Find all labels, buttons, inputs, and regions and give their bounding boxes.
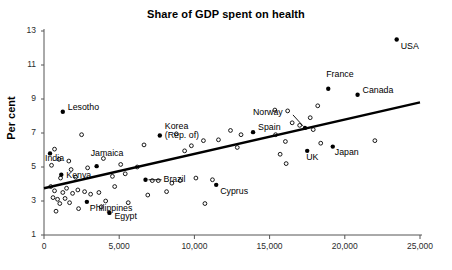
y-tick-label: 3 (14, 195, 36, 205)
point-label: Japan (335, 148, 359, 158)
point-label: Brazil (164, 175, 186, 185)
point-label: Cyprus (220, 187, 248, 197)
y-tick-label: 1 (14, 229, 36, 239)
x-tick-label: 0 (19, 241, 69, 251)
scatter-chart: Share of GDP spent on health Per cent 13… (0, 0, 452, 270)
point-label: France (326, 70, 353, 80)
point-label: Spain (258, 123, 281, 133)
y-tick-label: 13 (14, 25, 36, 35)
plot-area (0, 0, 452, 270)
x-tick-label: 20,000 (320, 241, 370, 251)
point-label: Lesotho (68, 103, 99, 113)
point-label: Jamaica (91, 149, 124, 159)
x-tick-label: 5,000 (94, 241, 144, 251)
point-label: Norway (253, 108, 283, 118)
y-tick-label: 5 (14, 161, 36, 171)
point-label: Korea (Rep. of) (165, 122, 199, 141)
x-tick-label: 25,000 (395, 241, 445, 251)
y-tick-label: 9 (14, 93, 36, 103)
x-tick-label: 10,000 (169, 241, 219, 251)
point-label: Kenya (66, 171, 91, 181)
point-label: India (45, 154, 64, 164)
trendline (44, 102, 420, 188)
point-label: USA (401, 42, 419, 52)
x-tick-label: 15,000 (245, 241, 295, 251)
point-label: Canada (363, 86, 394, 96)
y-tick-label: 7 (14, 127, 36, 137)
point-label: UK (306, 153, 318, 163)
point-label: Egypt (114, 212, 137, 222)
y-tick-label: 11 (14, 59, 36, 69)
